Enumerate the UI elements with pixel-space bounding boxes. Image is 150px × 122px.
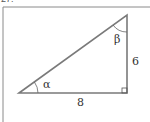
beta-arc [113,25,127,32]
alpha-arc [34,82,38,93]
right-triangle [19,15,127,93]
side-vertical-label: 6 [132,56,139,67]
side-horizontal-label: 8 [77,97,84,108]
angle-alpha-label: α [43,79,50,90]
angle-beta-label: β [114,34,120,45]
triangle-figure [0,0,150,122]
